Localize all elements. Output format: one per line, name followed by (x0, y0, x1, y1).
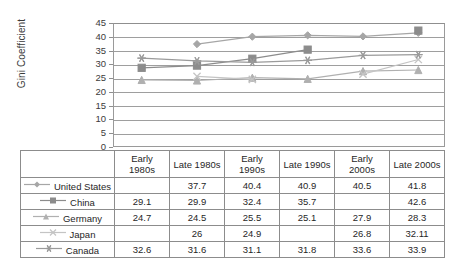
table-header: Early1980sLate 1980sEarly1990sLate 1990s… (21, 151, 445, 178)
series-united-states (193, 29, 422, 47)
table-cell: 41.8 (390, 178, 445, 194)
table-cell: 32.6 (115, 242, 170, 258)
table-cell: 42.6 (390, 194, 445, 210)
table-cell: 40.9 (280, 178, 335, 194)
data-point-square-marker (193, 62, 200, 69)
data-point-diamond-marker (304, 32, 311, 39)
table-row: Canada32.631.631.131.833.633.9 (21, 242, 445, 258)
table-cell: 31.6 (170, 242, 225, 258)
data-point-diamond-marker (249, 33, 256, 40)
legend-entry-united-states: United States (21, 178, 115, 194)
table-column-header: Late 1990s (280, 151, 335, 178)
table-cell (115, 226, 170, 242)
table-cell: 26.8 (335, 226, 390, 242)
table-column-header: Early1990s (225, 151, 280, 178)
y-axis-tick-label: 10 (66, 114, 106, 124)
legend-entry-china: China (21, 194, 115, 210)
table-cell: 25.5 (225, 210, 280, 226)
table-cell: 31.8 (280, 242, 335, 258)
table-column-header: Late 1980s (170, 151, 225, 178)
series-line (363, 60, 418, 75)
y-axis-tick-label: 45 (66, 18, 106, 28)
y-axis-tick-label: 30 (66, 59, 106, 69)
table-cell: 35.7 (280, 194, 335, 210)
table-column-header: Early2000s (335, 151, 390, 178)
table-cell: 27.9 (335, 210, 390, 226)
table-cell: 26 (170, 226, 225, 242)
square-marker-icon (40, 196, 66, 205)
series-label: China (70, 196, 95, 207)
table-cell: 37.7 (170, 178, 225, 194)
table-cell (335, 194, 390, 210)
data-point-square-marker (138, 64, 145, 71)
table-row: China29.129.932.435.742.6 (21, 194, 445, 210)
table-cell: 24.7 (115, 210, 170, 226)
table-row: Japan2624.926.832.11 (21, 226, 445, 242)
y-axis-tick-label: 25 (66, 73, 106, 83)
table-column-header: Early1980s (115, 151, 170, 178)
data-point-asterisk-marker (303, 57, 311, 64)
data-point-asterisk-marker (359, 52, 367, 59)
table-cell: 33.9 (390, 242, 445, 258)
data-point-asterisk-marker (137, 55, 145, 62)
triangle-marker-icon (33, 212, 59, 221)
y-axis-tick-label: 5 (66, 128, 106, 138)
table-cell: 24.5 (170, 210, 225, 226)
data-table: Early1980sLate 1980sEarly1990sLate 1990s… (20, 150, 445, 258)
series-line (142, 70, 419, 81)
data-point-x-marker (415, 56, 422, 63)
data-point-diamond-marker (359, 33, 366, 40)
table-cell: 32.4 (225, 194, 280, 210)
series-label: Canada (66, 244, 99, 255)
table-cell: 28.3 (390, 210, 445, 226)
plot-area (113, 23, 445, 147)
table-cell: 25.1 (280, 210, 335, 226)
table-cell: 33.6 (335, 242, 390, 258)
table-cell: 29.1 (115, 194, 170, 210)
table-cell: 40.5 (335, 178, 390, 194)
x-marker-icon (40, 228, 66, 237)
series-label: Germany (63, 212, 102, 223)
series-label: United States (54, 180, 111, 191)
series-label: Japan (70, 228, 96, 239)
y-axis-tick-label: 20 (66, 87, 106, 97)
series-line (142, 50, 308, 68)
y-axis-tick-label: 35 (66, 46, 106, 56)
line-chart: Gini Coefficient 051015202530354045 (0, 0, 464, 150)
y-axis-label: Gini Coefficient (16, 0, 27, 119)
table-header-row: Early1980sLate 1980sEarly1990sLate 1990s… (21, 151, 445, 178)
diamond-marker-icon (24, 180, 50, 189)
table-cell: 32.11 (390, 226, 445, 242)
series-canada (137, 51, 422, 66)
table-cell (280, 226, 335, 242)
table-cell (115, 178, 170, 194)
y-axis-tick-mark (109, 147, 113, 148)
legend-entry-canada: Canada (21, 242, 115, 258)
chart-figure: Gini Coefficient 051015202530354045 Earl… (0, 0, 464, 269)
series-line (142, 55, 419, 63)
series-china (138, 27, 422, 71)
series-layer (114, 24, 446, 148)
y-axis-tick-label: 15 (66, 101, 106, 111)
table-corner-cell (21, 151, 115, 178)
table-cell: 40.4 (225, 178, 280, 194)
table-row: Germany24.724.525.525.127.928.3 (21, 210, 445, 226)
data-point-diamond-marker (193, 41, 200, 48)
data-point-square-marker (304, 46, 311, 53)
table-cell: 29.9 (170, 194, 225, 210)
asterisk-marker-icon (36, 244, 62, 253)
legend-entry-japan: Japan (21, 226, 115, 242)
table-row: United States37.740.440.940.541.8 (21, 178, 445, 194)
table-cell: 31.1 (225, 242, 280, 258)
legend-entry-germany: Germany (21, 210, 115, 226)
table-body: United States37.740.440.940.541.8China29… (21, 178, 445, 258)
y-axis-tick-label: 40 (66, 32, 106, 42)
table-cell: 24.9 (225, 226, 280, 242)
data-point-square-marker (415, 27, 422, 34)
table-column-header: Late 2000s (390, 151, 445, 178)
series-germany (138, 66, 422, 84)
